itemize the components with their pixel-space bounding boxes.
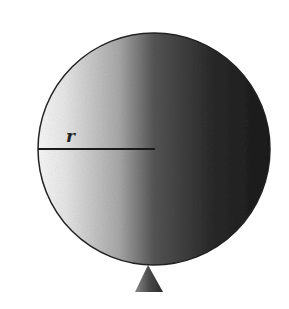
support-cone — [135, 265, 163, 292]
radius-label: r — [66, 126, 76, 146]
sphere-diagram: r — [0, 0, 289, 309]
